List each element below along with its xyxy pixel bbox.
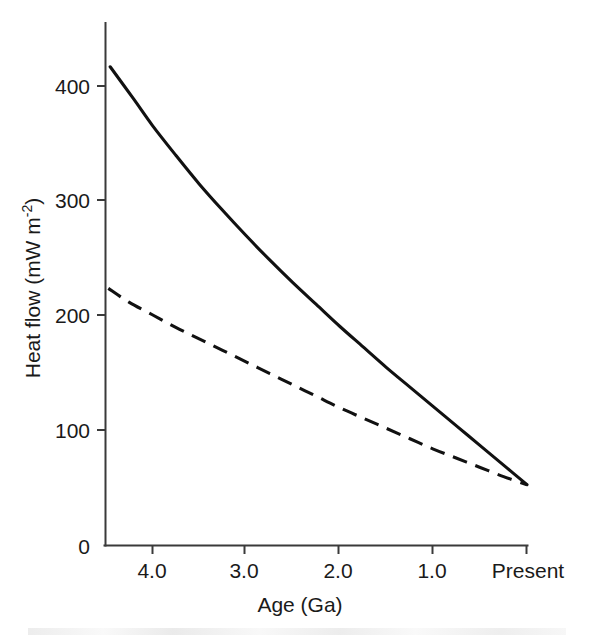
- upper-heat-flow-curve: [110, 67, 527, 485]
- y-tick-label-400: 400: [55, 75, 90, 98]
- y-tick-label-300: 300: [55, 189, 90, 212]
- y-tick-label-200: 200: [55, 304, 90, 327]
- y-axis-title-main: Heat flow (mW m: [21, 217, 44, 378]
- y-tick-label-0: 0: [78, 535, 90, 558]
- y-axis-title: Heat flow (mW m-2): [19, 198, 44, 378]
- y-axis-title-closeparen: ): [21, 198, 44, 205]
- figure-container: 400 300 200 100 0 4.0 3.0 2.0 1.0 Presen…: [0, 0, 593, 639]
- y-axis-title-superscript: -2: [19, 205, 35, 218]
- lower-heat-flow-curve: [108, 288, 527, 484]
- x-tick-label-1-0: 1.0: [417, 559, 446, 582]
- y-tick-label-100: 100: [55, 419, 90, 442]
- x-axis-title: Age (Ga): [257, 593, 342, 616]
- scan-artifact-line: [28, 628, 566, 635]
- svg-text:Heat flow (mW m-2): Heat flow (mW m-2): [19, 198, 44, 378]
- x-tick-label-2-0: 2.0: [323, 559, 352, 582]
- x-tick-label-present: Present: [492, 559, 565, 582]
- heat-flow-chart: 400 300 200 100 0 4.0 3.0 2.0 1.0 Presen…: [0, 0, 593, 639]
- x-tick-label-4-0: 4.0: [137, 559, 166, 582]
- x-tick-label-3-0: 3.0: [229, 559, 258, 582]
